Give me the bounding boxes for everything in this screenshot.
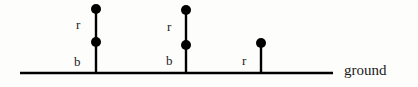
pole-1-node-middle <box>91 37 101 47</box>
pole-2-label-lower: b <box>166 54 173 67</box>
pole-2-label-upper: r <box>167 20 171 33</box>
pole-3-label-upper: r <box>242 54 246 67</box>
pole-2-node-top <box>181 5 191 15</box>
pole-1 <box>91 4 101 73</box>
pole-ground-diagram: r b r b r ground <box>0 0 418 87</box>
pole-1-node-top <box>91 4 101 14</box>
pole-3-node-top <box>256 38 266 48</box>
pole-1-label-lower: b <box>74 55 81 68</box>
pole-2 <box>181 5 191 73</box>
pole-3 <box>256 38 266 73</box>
pole-1-label-upper: r <box>76 18 80 31</box>
ground-caption: ground <box>344 63 387 78</box>
pole-2-node-middle <box>181 40 191 50</box>
